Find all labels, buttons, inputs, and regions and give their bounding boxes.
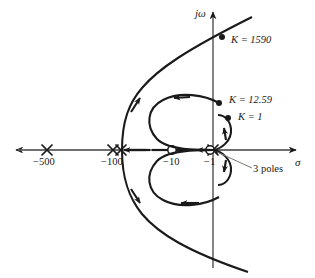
tick-label-minus-10: −10	[163, 157, 179, 168]
gain-label-12-59: K = 12.59	[229, 95, 272, 106]
tick-label-minus-500: −500	[33, 157, 55, 168]
sigma-axis-label: σ	[295, 157, 300, 168]
outer-branch	[122, 17, 252, 272]
tick-label-minus-100: −100	[101, 157, 123, 168]
three-poles-label: 3 poles	[253, 164, 283, 175]
gain-dot-1590	[219, 34, 225, 40]
gain-dot-1	[225, 115, 231, 121]
gain-label-1590: K = 1590	[231, 35, 271, 46]
three-poles-leader-line	[217, 152, 252, 168]
gain-label-1: K = 1	[238, 112, 263, 123]
j-omega-axis-label: jω	[195, 8, 206, 19]
tick-label-minus-1: −1	[204, 157, 215, 168]
root-locus-figure: jω σ −500 −100 −10 −1 K = 1590 K = 12.59…	[0, 0, 315, 278]
gain-dot-12-59	[216, 100, 222, 106]
